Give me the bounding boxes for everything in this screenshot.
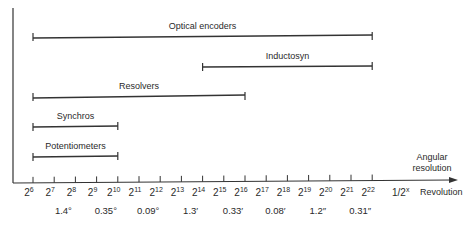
x-axis bbox=[13, 180, 452, 183]
x-axis-arrow-icon bbox=[449, 177, 458, 183]
tick-label: 29 bbox=[88, 186, 98, 198]
range-bar-inductosyn: Inductosyn bbox=[203, 51, 373, 71]
tick-label: 218 bbox=[277, 186, 290, 198]
axis-title-line1: Angular bbox=[416, 152, 447, 162]
unit-exponent: x bbox=[406, 186, 410, 193]
x-axis-tick-labels: 2627282921021121221321421521621721821922… bbox=[24, 186, 375, 198]
tick-label: 222 bbox=[362, 186, 375, 198]
range-bar-label: Potentiometers bbox=[45, 141, 106, 151]
tick-label: 26 bbox=[24, 186, 34, 198]
range-bar-optical-encoders: Optical encoders bbox=[33, 21, 372, 41]
range-bar-label: Optical encoders bbox=[169, 21, 237, 31]
tick-label: 27 bbox=[45, 186, 55, 198]
resolution-range-diagram: 2627282921021121221321421521621721821922… bbox=[0, 0, 469, 227]
tick-label: 221 bbox=[340, 186, 353, 198]
tick-label: 217 bbox=[256, 186, 269, 198]
resolution-label: 1.2″ bbox=[310, 205, 327, 216]
tick-label: 213 bbox=[171, 186, 184, 198]
tick-label: 210 bbox=[107, 186, 120, 198]
range-bar-resolvers: Resolvers bbox=[33, 81, 245, 101]
resolution-label: 1.4° bbox=[55, 205, 72, 216]
resolution-label: 0.33′ bbox=[223, 205, 243, 216]
unit-fraction: 1/2 bbox=[392, 187, 406, 198]
tick-label: 219 bbox=[298, 186, 311, 198]
tick-label: 216 bbox=[234, 186, 247, 198]
tick-label: 214 bbox=[192, 186, 205, 198]
resolution-label: 0.09° bbox=[137, 205, 159, 216]
tick-label: 215 bbox=[213, 186, 226, 198]
range-bar-label: Synchros bbox=[57, 111, 95, 121]
tick-label: 220 bbox=[319, 186, 332, 198]
axis-unit-label: 1/2x bbox=[392, 186, 410, 198]
resolution-label: 0.08′ bbox=[265, 205, 285, 216]
range-bars: Optical encodersInductosynResolversSynch… bbox=[33, 21, 372, 161]
axis-unit-word: Revolution bbox=[420, 187, 463, 197]
resolution-value-labels: 1.4°0.35°0.09°1.3′0.33′0.08′1.2″0.31″ bbox=[55, 205, 372, 216]
resolution-label: 0.31″ bbox=[349, 205, 371, 216]
range-bar-label: Inductosyn bbox=[266, 51, 310, 61]
x-axis-ticks bbox=[33, 175, 372, 183]
tick-label: 212 bbox=[150, 186, 163, 198]
range-bar-synchros: Synchros bbox=[33, 111, 118, 131]
axis-title-line2: resolution bbox=[412, 163, 451, 173]
resolution-label: 0.35° bbox=[95, 205, 117, 216]
range-bar-label: Resolvers bbox=[119, 81, 160, 91]
range-bar-potentiometers: Potentiometers bbox=[33, 141, 118, 161]
resolution-label: 1.3′ bbox=[183, 205, 198, 216]
tick-label: 28 bbox=[67, 186, 77, 198]
tick-label: 211 bbox=[129, 186, 142, 198]
